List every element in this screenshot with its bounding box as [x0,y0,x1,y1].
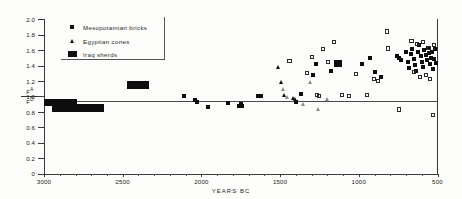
x-tick-minor [343,174,344,176]
x-tick-minor [138,174,139,176]
y-tick [38,35,44,36]
marker-filled-square [409,52,413,56]
marker-filled-square [311,73,315,77]
y-tick [38,81,44,82]
marker-iraq-sherd-bar [127,81,149,89]
marker-filled-square [195,100,199,104]
y-axis-right-line [437,19,438,174]
marker-filled-square [406,60,410,64]
marker-filled-square [329,69,333,73]
marker-open-square [385,29,389,33]
legend-marker-iraq-sherds [67,51,77,56]
y-tick-label: 1.6 [5,47,35,54]
marker-filled-square [226,101,230,105]
marker-open-square [287,59,291,63]
marker-open-square [418,75,422,79]
marker-open-square [432,43,436,47]
y-tick-label: 1.2 [5,78,35,85]
marker-open-square [321,47,325,51]
marker-filled-square [314,62,318,66]
marker-open-square [305,71,309,75]
marker-filled-square [182,94,186,98]
x-tick-label: 1500 [260,178,300,185]
x-tick-minor [186,174,187,176]
marker-filled-square [434,61,438,65]
x-tick-minor [390,174,391,176]
marker-filled-square [206,105,210,109]
marker-filled-square [433,47,437,51]
marker-filled-square [259,94,263,98]
x-tick-major [201,174,202,178]
x-tick-minor [422,174,423,176]
marker-filled-square [410,47,414,51]
legend-marker-mesopotamian-bricks [67,25,77,29]
y-tick [38,66,44,67]
y-tick-label: 0.6 [5,124,35,131]
x-tick-label: 1000 [339,178,379,185]
marker-open-square [317,94,321,98]
x-tick-minor [217,174,218,176]
x-tick-minor [312,174,313,176]
marker-open-square [332,40,336,44]
marker-filled-square [413,63,417,67]
marker-filled-triangle [279,80,283,84]
marker-iraq-sherd-bar [52,104,104,112]
marker-open-triangle [285,95,289,99]
x-tick-minor [296,174,297,176]
marker-open-square [365,93,369,97]
x-tick-minor [327,174,328,176]
marker-open-square [340,93,344,97]
x-tick-major [123,174,124,178]
marker-filled-square [428,62,432,66]
y-tick-label: 0.2 [5,155,35,162]
x-axis-line [44,174,438,175]
marker-filled-square [407,66,411,70]
marker-open-square [354,72,358,76]
marker-filled-triangle [293,97,297,101]
x-tick-minor [170,174,171,176]
marker-filled-square [399,58,403,62]
marker-open-triangle [308,80,312,84]
marker-filled-square [360,62,364,66]
x-tick-label: 3000 [24,178,64,185]
y-tick-label: 2.0 [5,16,35,23]
marker-open-square [424,73,428,77]
x-tick-major [280,174,281,178]
y-axis-label: FA FD [18,88,42,105]
marker-open-square [310,55,314,59]
y-tick [38,158,44,159]
x-tick-minor [154,174,155,176]
marker-filled-square [420,60,424,64]
marker-open-square [386,46,390,50]
marker-open-square [412,70,416,74]
marker-filled-square [368,56,372,60]
marker-filled-square [404,50,408,54]
x-tick-major [359,174,360,178]
x-tick-major [438,174,439,178]
marker-iraq-sherd-bar [334,60,343,67]
marker-filled-square [431,67,435,71]
legend-label-mesopotamian-bricks: Mesopotamian bricks [83,24,147,31]
x-tick-label: 500 [418,178,458,185]
y-tick-label: 0.4 [5,139,35,146]
y-tick-label: 0.8 [5,109,35,116]
plot-area: 00.20.40.60.81.01.21.41.61.82.0 30002500… [0,0,462,199]
marker-filled-triangle [276,65,280,69]
marker-filled-square [421,65,425,69]
marker-filled-square [240,104,244,108]
x-tick-label: 2500 [103,178,143,185]
x-tick-minor [264,174,265,176]
y-tick-label: 0 [5,170,35,177]
y-axis-line [44,19,45,174]
x-tick-major [44,174,45,178]
x-tick-label: 2000 [181,178,221,185]
marker-open-square [409,39,413,43]
x-tick-minor [375,174,376,176]
x-tick-minor [233,174,234,176]
y-tick [38,127,44,128]
x-tick-minor [107,174,108,176]
marker-open-square [427,46,431,50]
marker-open-square [376,79,380,83]
marker-open-square [431,113,435,117]
marker-open-square [326,60,330,64]
